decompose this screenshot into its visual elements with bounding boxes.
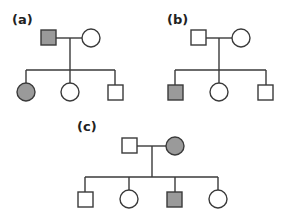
affected-male-symbol xyxy=(167,192,182,207)
pedigree-c: (c) xyxy=(77,119,227,208)
unaffected-male-symbol xyxy=(78,192,93,207)
affected-male-symbol xyxy=(168,85,183,100)
unaffected-female-symbol xyxy=(232,29,250,47)
affected-female-symbol xyxy=(17,83,35,101)
unaffected-female-symbol xyxy=(120,190,138,208)
pedigree-diagram: (a) (b) (c) xyxy=(0,0,285,220)
affected-male-symbol xyxy=(41,30,56,45)
unaffected-female-symbol xyxy=(82,29,100,47)
pedigree-c-label: (c) xyxy=(77,119,97,134)
unaffected-male-symbol xyxy=(122,138,137,153)
pedigree-a-label: (a) xyxy=(12,12,33,27)
pedigree-a: (a) xyxy=(12,12,123,101)
pedigree-b-label: (b) xyxy=(167,12,188,27)
unaffected-female-symbol xyxy=(210,83,228,101)
unaffected-female-symbol xyxy=(209,190,227,208)
unaffected-male-symbol xyxy=(191,30,206,45)
unaffected-female-symbol xyxy=(61,83,79,101)
affected-female-symbol xyxy=(166,137,184,155)
pedigree-b: (b) xyxy=(167,12,273,101)
unaffected-male-symbol xyxy=(258,85,273,100)
unaffected-male-symbol xyxy=(108,85,123,100)
